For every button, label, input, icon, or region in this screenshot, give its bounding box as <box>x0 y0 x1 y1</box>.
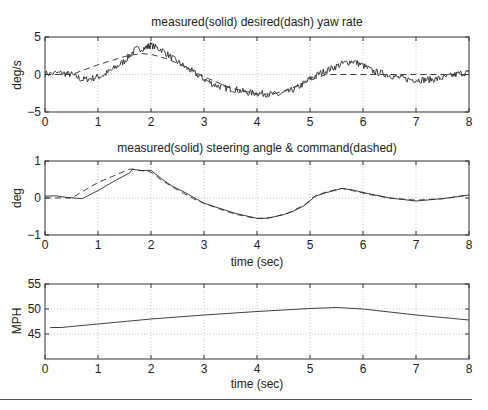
y-tick-label: 5 <box>34 30 41 44</box>
x-tick-label: 0 <box>42 238 49 252</box>
x-tick-label: 7 <box>413 238 420 252</box>
y-axis-label: deg <box>10 188 24 208</box>
panel-steering-angle: measured(solid) steering angle & command… <box>10 141 473 269</box>
x-tick-label: 5 <box>307 238 314 252</box>
chart-canvas: measured(solid) desired(dash) yaw rate d… <box>0 0 488 410</box>
x-tick-label: 1 <box>95 115 102 129</box>
x-tick-label: 1 <box>95 362 102 376</box>
x-tick-label: 6 <box>360 362 367 376</box>
y-tick-label: 45 <box>28 327 42 341</box>
panel-title: measured(solid) desired(dash) yaw rate <box>151 15 363 29</box>
y-tick-label: −5 <box>27 105 41 119</box>
series-speed <box>50 308 469 328</box>
series-measured <box>45 43 469 98</box>
x-tick-label: 3 <box>201 238 208 252</box>
y-tick-label: 55 <box>28 277 42 291</box>
x-tick-label: 2 <box>148 238 155 252</box>
x-tick-label: 4 <box>254 238 261 252</box>
y-tick-label: 50 <box>28 302 42 316</box>
x-tick-label: 3 <box>201 362 208 376</box>
x-tick-label: 2 <box>148 362 155 376</box>
x-tick-label: 8 <box>466 238 473 252</box>
x-tick-label: 2 <box>148 115 155 129</box>
panel-speed: MPH time (sec) 012345678455055 <box>10 277 473 391</box>
x-tick-label: 4 <box>254 115 261 129</box>
x-axis-label: time (sec) <box>231 377 284 391</box>
x-tick-label: 4 <box>254 362 261 376</box>
x-tick-label: 6 <box>360 115 367 129</box>
x-tick-label: 0 <box>42 362 49 376</box>
figure-divider <box>0 399 472 400</box>
x-tick-label: 1 <box>95 238 102 252</box>
y-axis-label: deg/s <box>10 60 24 89</box>
x-tick-label: 5 <box>307 362 314 376</box>
x-tick-label: 3 <box>201 115 208 129</box>
x-tick-label: 0 <box>42 115 49 129</box>
figure: measured(solid) desired(dash) yaw rate d… <box>0 0 488 410</box>
x-tick-label: 5 <box>307 115 314 129</box>
y-axis-label: MPH <box>10 308 24 335</box>
y-tick-label: −1 <box>27 228 41 242</box>
panel-title: measured(solid) steering angle & command… <box>117 141 396 155</box>
x-tick-label: 8 <box>466 115 473 129</box>
x-tick-label: 8 <box>466 362 473 376</box>
y-tick-label: 1 <box>34 154 41 168</box>
y-tick-label: 0 <box>34 191 41 205</box>
x-tick-label: 7 <box>413 115 420 129</box>
x-tick-label: 6 <box>360 238 367 252</box>
x-axis-label: time (sec) <box>231 255 284 269</box>
x-tick-label: 7 <box>413 362 420 376</box>
panel-yaw-rate: measured(solid) desired(dash) yaw rate d… <box>10 15 473 129</box>
y-tick-label: 0 <box>34 68 41 82</box>
